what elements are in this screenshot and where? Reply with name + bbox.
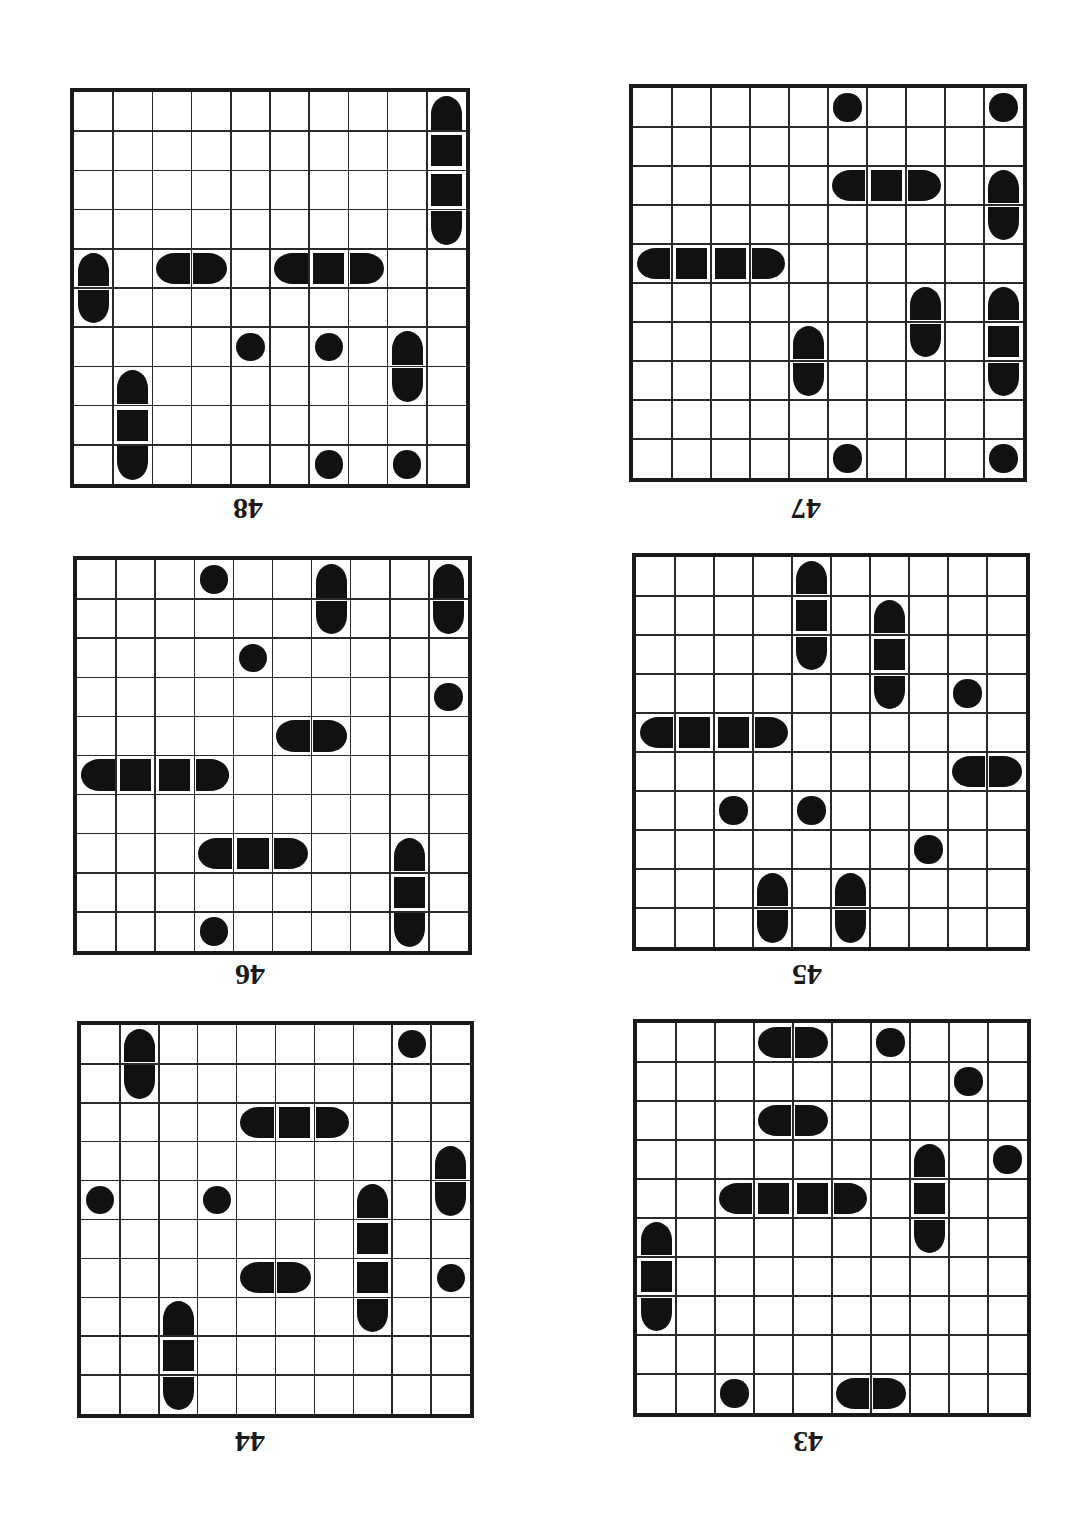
grid-line <box>74 326 466 328</box>
ship-end-bottom-icon <box>435 1182 466 1215</box>
ship-end-left-icon <box>640 717 674 748</box>
grid-line <box>389 560 391 951</box>
ship-end-top-icon <box>357 1184 388 1217</box>
ship-end-left-icon <box>240 1107 273 1138</box>
ship-middle-icon <box>676 248 707 279</box>
ship-end-bottom-icon <box>988 363 1019 397</box>
grid-line <box>636 829 1026 831</box>
grid-line <box>633 321 1023 323</box>
submarine-dot-icon <box>393 450 421 478</box>
grid-line <box>77 872 468 874</box>
ship-end-left-icon <box>240 1262 273 1293</box>
ship-end-right-icon <box>196 759 230 790</box>
ship-end-top-icon <box>914 1144 945 1178</box>
grid-line <box>869 557 871 947</box>
grid-line <box>636 907 1026 909</box>
puzzle-grid <box>632 553 1030 951</box>
submarine-dot-icon <box>315 333 343 361</box>
ship-end-top-icon <box>316 564 347 598</box>
ship-end-right-icon <box>795 1105 829 1136</box>
ship-end-top-icon <box>988 170 1019 204</box>
ship-end-left-icon <box>198 838 232 869</box>
grid-line <box>77 911 468 913</box>
grid-line <box>983 88 985 478</box>
grid-line <box>308 92 310 484</box>
ship-end-right-icon <box>316 1107 349 1138</box>
grid-line <box>905 88 907 478</box>
ship-end-bottom-icon <box>392 368 423 402</box>
ship-end-top-icon <box>988 287 1019 321</box>
puzzle-number: 47 <box>766 494 846 524</box>
puzzle-grid <box>633 1019 1031 1417</box>
grid-line <box>909 1023 911 1413</box>
grid-line <box>428 560 430 951</box>
submarine-dot-icon <box>914 835 942 863</box>
ship-end-right-icon <box>989 756 1023 787</box>
grid-line <box>637 1217 1027 1219</box>
ship-middle-icon <box>797 1183 828 1214</box>
ship-end-right-icon <box>834 1183 868 1214</box>
grid-line <box>637 1256 1027 1258</box>
submarine-dot-icon <box>315 450 343 478</box>
ship-end-top-icon <box>117 370 148 404</box>
ship-middle-icon <box>357 1262 388 1293</box>
ship-end-top-icon <box>163 1301 194 1334</box>
ship-end-right-icon <box>908 170 942 201</box>
grid-line <box>81 1335 470 1337</box>
grid-line <box>636 751 1026 753</box>
submarine-dot-icon <box>203 1186 231 1214</box>
submarine-dot-icon <box>989 93 1017 121</box>
ship-end-bottom-icon <box>910 324 941 358</box>
submarine-dot-icon <box>236 333 264 361</box>
submarine-dot-icon <box>989 444 1017 472</box>
ship-middle-icon <box>718 717 749 748</box>
ship-middle-icon <box>874 639 905 670</box>
grid-line <box>81 1297 470 1299</box>
submarine-dot-icon <box>437 1264 465 1292</box>
grid-line <box>77 794 468 796</box>
submarine-dot-icon <box>398 1030 426 1058</box>
submarine-dot-icon <box>434 683 462 711</box>
ship-end-left-icon <box>637 248 671 279</box>
ship-end-bottom-icon <box>357 1299 388 1332</box>
ship-end-right-icon <box>313 720 347 751</box>
submarine-dot-icon <box>719 796 747 824</box>
ship-middle-icon <box>279 1107 310 1138</box>
ship-middle-icon <box>159 759 190 790</box>
ship-middle-icon <box>758 1183 789 1214</box>
grid-line <box>430 1025 432 1414</box>
grid-line <box>866 88 868 478</box>
ship-end-right-icon <box>873 1378 907 1409</box>
ship-end-bottom-icon <box>117 446 148 480</box>
submarine-dot-icon <box>239 644 267 672</box>
ship-middle-icon <box>117 410 148 441</box>
grid-line <box>348 92 350 484</box>
ship-end-bottom-icon <box>78 290 109 324</box>
ship-end-right-icon <box>193 253 227 284</box>
grid-line <box>74 366 466 368</box>
ship-end-bottom-icon <box>835 910 866 944</box>
ship-end-left-icon <box>832 170 866 201</box>
ship-end-bottom-icon <box>433 601 464 635</box>
ship-end-bottom-icon <box>163 1377 194 1410</box>
ship-end-top-icon <box>435 1146 466 1179</box>
grid-line <box>81 1258 470 1260</box>
grid-line <box>633 282 1023 284</box>
grid-line <box>948 1023 950 1413</box>
ship-end-bottom-icon <box>988 207 1019 241</box>
submarine-dot-icon <box>200 917 228 945</box>
ship-end-left-icon <box>274 253 308 284</box>
puzzle-number: 48 <box>208 494 288 524</box>
ship-end-bottom-icon <box>641 1298 672 1332</box>
grid-line <box>350 560 352 951</box>
ship-middle-icon <box>914 1183 945 1214</box>
submarine-dot-icon <box>993 1145 1021 1173</box>
grid-line <box>311 560 313 951</box>
ship-end-bottom-icon <box>874 676 905 710</box>
puzzle-grid <box>73 556 472 955</box>
grid-line <box>636 868 1026 870</box>
ship-end-top-icon <box>433 564 464 598</box>
submarine-dot-icon <box>797 796 825 824</box>
ship-end-top-icon <box>910 287 941 321</box>
grid-line <box>74 405 466 407</box>
